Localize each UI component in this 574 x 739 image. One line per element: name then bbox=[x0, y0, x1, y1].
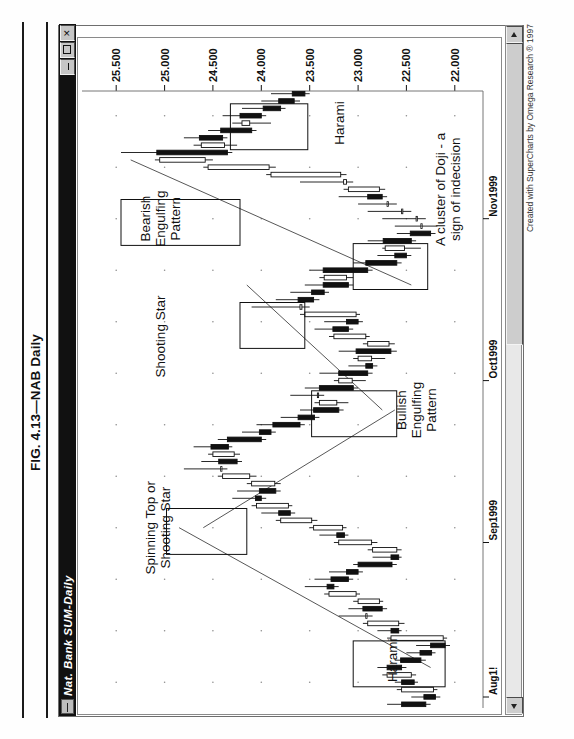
maximize-button[interactable] bbox=[60, 42, 75, 58]
svg-text:23.000: 23.000 bbox=[352, 48, 364, 82]
scroll-left-arrow-icon[interactable] bbox=[506, 697, 523, 714]
svg-text:Harami: Harami bbox=[332, 101, 347, 145]
close-button[interactable]: ✕ bbox=[60, 25, 75, 41]
scrollbar-track[interactable] bbox=[506, 345, 521, 697]
figure-caption: FIG. 4.13—NAB Daily bbox=[28, 273, 43, 533]
candlestick-chart: 25.50025.00024.50024.00023.50023.00022.5… bbox=[78, 38, 501, 714]
chart-window-icon bbox=[61, 699, 74, 714]
caption-rule-bottom bbox=[46, 22, 48, 718]
svg-text:Nov1999: Nov1999 bbox=[488, 175, 499, 217]
svg-text:24.000: 24.000 bbox=[255, 48, 267, 82]
svg-text:Aug1!: Aug1! bbox=[488, 667, 499, 695]
svg-text:25.500: 25.500 bbox=[110, 48, 122, 82]
svg-text:BearishEngulfingPattern: BearishEngulfingPattern bbox=[138, 191, 183, 247]
book-page: FIG. 4.13—NAB Daily Nat. Bank SUM-Daily … bbox=[0, 0, 574, 739]
window-title-bar[interactable]: Nat. Bank SUM-Daily ✕ bbox=[59, 24, 76, 716]
svg-text:Oct1999: Oct1999 bbox=[488, 339, 499, 378]
svg-text:Sep1999: Sep1999 bbox=[488, 499, 499, 540]
scroll-right-arrow-icon[interactable] bbox=[506, 26, 523, 43]
svg-text:Spinning Top orShooting Star: Spinning Top orShooting Star bbox=[143, 480, 173, 574]
screenshot-region: Nat. Bank SUM-Daily ✕ 25.50025.00024.500… bbox=[58, 25, 524, 717]
chart-application-window: Nat. Bank SUM-Daily ✕ 25.50025.00024.500… bbox=[58, 25, 524, 717]
svg-text:25.000: 25.000 bbox=[159, 48, 171, 82]
scrollbar-thumb[interactable] bbox=[506, 43, 523, 345]
window-controls: ✕ bbox=[60, 25, 75, 75]
svg-text:A cluster of Doji - asign of i: A cluster of Doji - asign of indecision bbox=[433, 132, 463, 246]
credit-text: Created with SuperCharts by Omega Resear… bbox=[525, 24, 535, 232]
window-title: Nat. Bank SUM-Daily bbox=[62, 575, 74, 696]
svg-text:23.500: 23.500 bbox=[304, 48, 316, 82]
minimize-button[interactable] bbox=[60, 59, 75, 75]
svg-text:BullishEngulfingPattern: BullishEngulfingPattern bbox=[394, 382, 439, 438]
svg-text:22.000: 22.000 bbox=[449, 48, 461, 82]
svg-text:Harami: Harami bbox=[385, 638, 400, 682]
svg-text:24.500: 24.500 bbox=[207, 48, 219, 82]
chart-credit-line: Created with SuperCharts by Omega Resear… bbox=[525, 24, 539, 716]
chart-plot-area[interactable]: 25.50025.00024.50024.00023.50023.00022.5… bbox=[77, 37, 502, 715]
svg-text:Shooting Star: Shooting Star bbox=[153, 295, 168, 377]
svg-text:22.500: 22.500 bbox=[400, 48, 412, 82]
horizontal-scrollbar[interactable] bbox=[505, 25, 522, 715]
caption-rule-top bbox=[22, 22, 24, 718]
